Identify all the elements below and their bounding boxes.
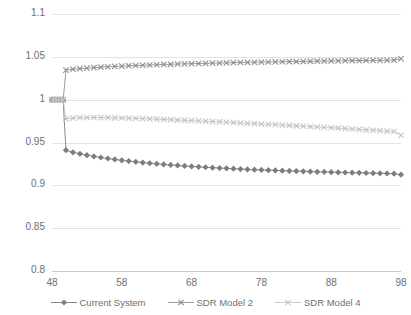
data-point-marker xyxy=(126,158,132,164)
data-point-marker xyxy=(189,163,195,169)
data-point-marker xyxy=(119,157,125,163)
legend-item-sdr-model-2[interactable]: SDR Model 2 xyxy=(168,297,254,308)
series-sdr-model-4 xyxy=(49,97,403,138)
data-point-marker xyxy=(321,169,327,175)
data-point-marker xyxy=(202,164,208,170)
data-point-marker xyxy=(342,169,348,175)
series-line xyxy=(52,100,401,136)
data-point-marker xyxy=(195,164,201,170)
data-point-marker xyxy=(363,170,369,176)
data-point-marker xyxy=(105,155,111,161)
data-point-marker xyxy=(258,167,264,173)
data-point-marker xyxy=(77,151,83,157)
data-point-marker xyxy=(84,152,90,158)
data-point-marker xyxy=(398,133,403,138)
chart-container: 0.80.850.90.9511.051.1 485868788898 Curr… xyxy=(0,0,411,315)
data-point-marker xyxy=(133,159,139,165)
data-point-marker xyxy=(377,170,383,176)
data-point-marker xyxy=(328,169,334,175)
data-point-marker xyxy=(98,154,104,160)
data-point-marker xyxy=(230,166,236,172)
data-point-marker xyxy=(265,167,271,173)
series-line xyxy=(52,59,401,100)
data-point-marker xyxy=(314,169,320,175)
data-point-marker xyxy=(398,172,404,178)
series-current-system xyxy=(49,97,404,178)
series-line xyxy=(52,100,401,175)
legend-item-current-system[interactable]: Current System xyxy=(51,297,146,308)
data-point-marker xyxy=(175,162,181,168)
diamond-marker-icon xyxy=(51,297,77,308)
data-point-marker xyxy=(251,167,257,173)
data-point-marker xyxy=(349,170,355,176)
data-point-marker xyxy=(209,165,215,171)
data-point-marker xyxy=(307,168,313,174)
data-point-marker xyxy=(91,153,97,159)
data-point-marker xyxy=(293,168,299,174)
data-point-marker xyxy=(272,167,278,173)
legend-item-sdr-model-4[interactable]: SDR Model 4 xyxy=(275,297,361,308)
legend-label: SDR Model 4 xyxy=(304,297,361,308)
data-point-marker xyxy=(147,160,153,166)
data-point-marker xyxy=(70,149,76,155)
legend-label: SDR Model 2 xyxy=(197,297,254,308)
data-point-marker xyxy=(335,169,341,175)
data-point-marker xyxy=(391,171,397,177)
data-point-marker xyxy=(223,165,229,171)
data-point-marker xyxy=(237,166,243,172)
data-point-marker xyxy=(154,161,160,167)
data-point-marker xyxy=(63,147,69,153)
data-point-marker xyxy=(286,168,292,174)
data-point-marker xyxy=(244,166,250,172)
data-point-marker xyxy=(279,168,285,174)
data-point-marker xyxy=(370,170,376,176)
data-point-marker xyxy=(112,156,118,162)
data-point-marker xyxy=(161,161,167,167)
data-point-marker xyxy=(384,170,390,176)
plot-area xyxy=(0,0,411,315)
data-point-marker xyxy=(60,299,66,305)
x-marker-icon xyxy=(275,297,301,308)
x-marker-icon xyxy=(168,297,194,308)
series-sdr-model-2 xyxy=(49,56,403,102)
data-point-marker xyxy=(356,170,362,176)
data-point-marker xyxy=(140,159,146,165)
data-point-marker xyxy=(168,162,174,168)
legend-label: Current System xyxy=(80,297,146,308)
data-point-marker xyxy=(182,163,188,169)
data-point-marker xyxy=(300,168,306,174)
data-point-marker xyxy=(216,165,222,171)
chart-legend: Current SystemSDR Model 2SDR Model 4 xyxy=(0,297,411,308)
